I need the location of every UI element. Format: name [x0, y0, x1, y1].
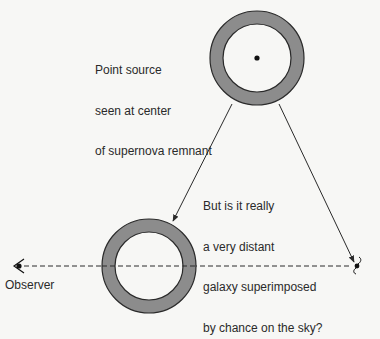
annotation-line: Point source	[95, 64, 212, 78]
supernova-remnant-actual	[102, 219, 196, 313]
point-source-dot	[254, 55, 259, 60]
supernova-remnant-apparent	[210, 11, 304, 105]
point-source-annotation: Point source seen at center of supernova…	[95, 37, 212, 172]
question-annotation: But is it really a very distant galaxy s…	[203, 173, 322, 339]
annotation-line: But is it really	[203, 200, 322, 214]
annotation-line: of supernova remnant	[95, 145, 212, 159]
annotation-line: galaxy superimposed	[203, 281, 322, 295]
observer-label: Observer	[5, 279, 54, 293]
annotation-line: by chance on the sky?	[203, 322, 322, 336]
eye-icon	[14, 259, 24, 273]
annotation-line: seen at center	[95, 105, 212, 119]
annotation-line: a very distant	[203, 241, 322, 255]
spiral-galaxy-icon	[354, 257, 361, 274]
